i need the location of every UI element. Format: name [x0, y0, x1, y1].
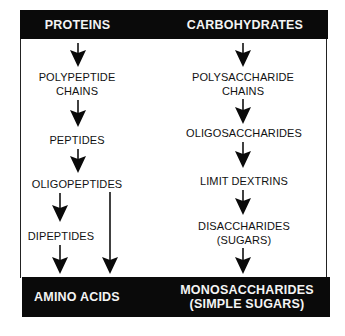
long-arrow-down-icon	[102, 192, 118, 274]
arrow-down-icon	[52, 245, 68, 274]
arrow-down-icon	[52, 193, 68, 222]
arrow-down-icon	[235, 248, 251, 274]
arrow-down-icon	[70, 43, 86, 67]
arrow-down-icon	[235, 142, 251, 168]
arrow-down-icon	[70, 100, 86, 127]
arrow-down-icon	[235, 190, 251, 215]
arrow-down-icon	[70, 149, 86, 173]
arrow-down-icon	[235, 99, 251, 124]
arrow-down-icon	[235, 43, 251, 67]
arrows-layer	[0, 0, 345, 336]
